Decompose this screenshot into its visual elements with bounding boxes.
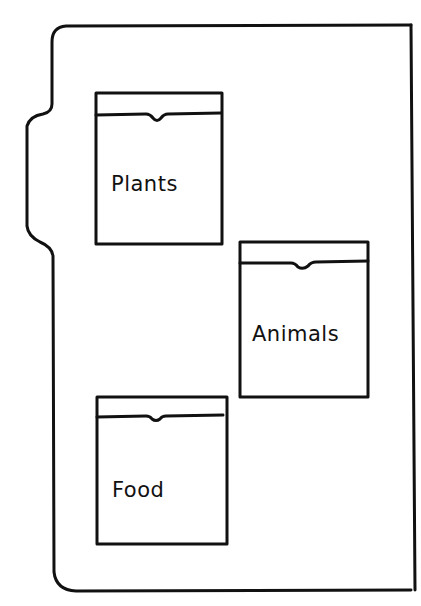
folder-spine [411, 25, 415, 590]
folder-diagram: Plants Animals Food [0, 0, 421, 606]
folder-body [27, 25, 411, 591]
folder-outline [0, 0, 421, 606]
pocket-animals [240, 242, 368, 397]
pocket-label-animals: Animals [252, 322, 339, 346]
pocket-label-food: Food [112, 478, 164, 502]
pocket-food [97, 397, 227, 544]
pocket-plants [96, 93, 222, 244]
pocket-label-plants: Plants [111, 172, 178, 196]
